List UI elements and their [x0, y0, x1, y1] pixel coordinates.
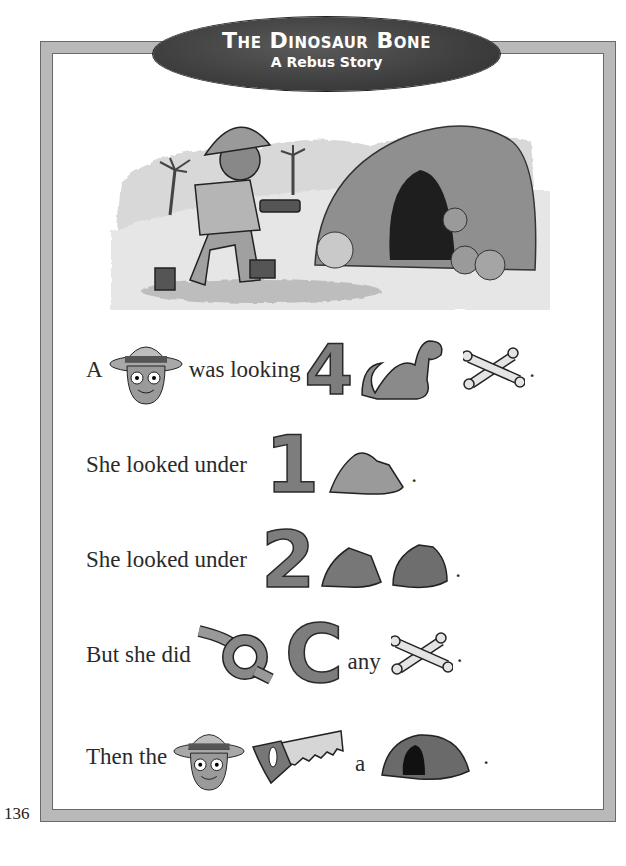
rebus-numeral-2: 2: [261, 521, 315, 599]
story-text: .: [457, 642, 463, 668]
dinosaur-icon: [357, 335, 449, 405]
rock-icon: [327, 447, 407, 497]
knot-icon: [195, 623, 275, 687]
rebus-letter-c: C: [285, 615, 344, 695]
story-text: a: [355, 751, 365, 777]
story-line-4: But she did C any .: [82, 610, 466, 700]
page-number: 136: [4, 804, 30, 824]
story-text: was looking: [189, 357, 301, 383]
story-text: She looked under: [86, 547, 247, 573]
story-text: A: [86, 357, 103, 383]
story-text: any: [348, 649, 381, 675]
story-text: She looked under: [86, 452, 247, 478]
story-line-1: A was looking 4 .: [82, 325, 539, 415]
girl-explorer-icon: [107, 334, 185, 406]
rebus-numeral-4: 4: [304, 335, 353, 405]
rock-icon: [389, 539, 451, 591]
girl-explorer-icon: [171, 722, 247, 792]
story-text: .: [529, 357, 535, 383]
page-title: The Dinosaur Bone: [153, 28, 500, 54]
story-text: .: [411, 462, 417, 488]
cave-icon: [379, 731, 473, 783]
story-line-5: Then the a .: [82, 712, 493, 802]
story-line-3: She looked under 2 .: [82, 515, 465, 605]
story-text: But she did: [86, 642, 191, 668]
crossed-bones-icon: [463, 344, 525, 396]
story-text: Then the: [86, 744, 167, 770]
rebus-numeral-1: 1: [265, 426, 319, 504]
saw-icon: [251, 727, 345, 787]
rock-icon: [319, 540, 385, 590]
title-banner: The Dinosaur Bone A Rebus Story: [153, 17, 500, 91]
story-line-2: She looked under 1 .: [82, 420, 421, 510]
story-text: .: [483, 744, 489, 770]
page-subtitle: A Rebus Story: [153, 54, 500, 71]
story-text: .: [455, 557, 461, 583]
crossed-bones-icon: [391, 629, 453, 681]
cave-explorer-illustration: [110, 100, 550, 310]
